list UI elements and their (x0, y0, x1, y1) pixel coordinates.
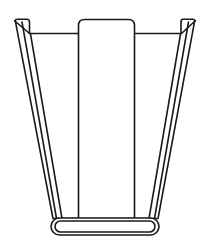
vase-foot-inner (55, 221, 155, 232)
vase-illustration (0, 0, 209, 251)
drawing-canvas: Outline drawing of a fluted flaring vase… (0, 0, 209, 251)
